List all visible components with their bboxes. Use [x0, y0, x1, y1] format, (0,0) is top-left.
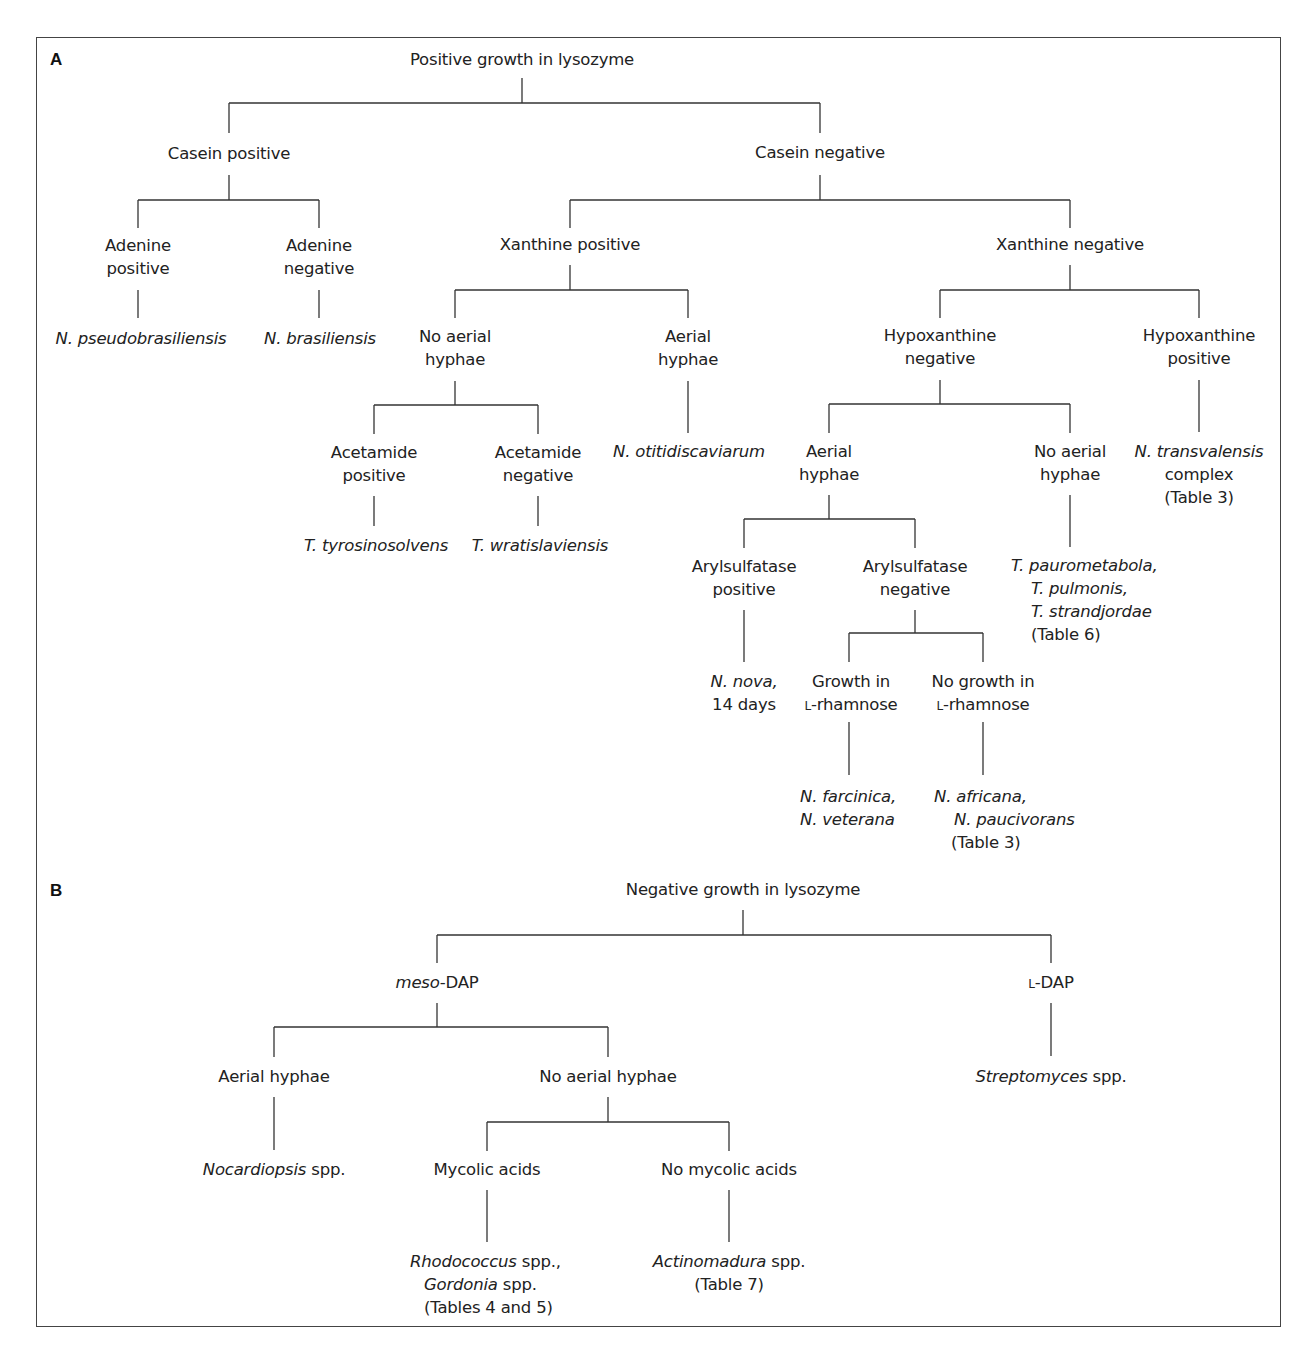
node-positive-growth-lysozyme: Positive growth in lysozyme [410, 48, 634, 71]
node-line: hyphae [799, 463, 859, 486]
node-text: -DAP [440, 973, 479, 992]
panel-b-label: B [50, 881, 62, 901]
node-adenine-negative: Adenine negative [284, 234, 355, 280]
panel-a-label: A [50, 50, 62, 70]
node-text: Gordonia [424, 1275, 498, 1294]
node-line: T. strandjordae [1011, 600, 1157, 623]
table-ref: (Table 6) [1011, 623, 1157, 646]
node-line: N. veterana [800, 808, 896, 831]
node-text: spp., [517, 1252, 561, 1271]
node-line: Adenine [284, 234, 355, 257]
node-line: negative [284, 257, 355, 280]
node-hypoxanthine-negative: Hypoxanthine negative [884, 324, 996, 370]
node-text: Streptomyces [975, 1067, 1087, 1086]
species-nocardiopsis: Nocardiopsis spp. [203, 1158, 345, 1181]
node-line: N. farcinica, [800, 785, 896, 808]
table-ref: (Tables 4 and 5) [410, 1296, 561, 1319]
node-text: Actinomadura [653, 1252, 767, 1271]
node-line: No aerial [1034, 440, 1106, 463]
node-line: positive [105, 257, 171, 280]
node-no-mycolic-acids: No mycolic acids [661, 1158, 797, 1181]
species-streptomyces: Streptomyces spp. [975, 1065, 1126, 1088]
node-line: Acetamide [331, 441, 417, 464]
node-line: No aerial [419, 325, 491, 348]
node-acetamide-negative: Acetamide negative [495, 441, 581, 487]
node-line: hyphae [1034, 463, 1106, 486]
node-casein-negative: Casein negative [755, 141, 885, 164]
node-text: spp. [498, 1275, 537, 1294]
node-text: -DAP [1035, 973, 1074, 992]
node-text: -rhamnose [943, 695, 1030, 714]
node-line: L-rhamnose [804, 693, 897, 718]
node-hn-aerial-hyphae: Aerial hyphae [799, 440, 859, 486]
node-hypoxanthine-positive: Hypoxanthine positive [1143, 324, 1255, 370]
node-line: Actinomadura spp. [653, 1250, 806, 1273]
node-text: Rhodococcus [410, 1252, 517, 1271]
species-n-transvalensis-complex: N. transvalensis complex (Table 3) [1135, 440, 1264, 509]
node-line: Rhodococcus spp., [410, 1250, 561, 1273]
species-actinomadura: Actinomadura spp. (Table 7) [653, 1250, 806, 1296]
node-text: meso [396, 973, 440, 992]
connector-lines [0, 0, 1310, 1355]
node-xanthine-negative: Xanthine negative [996, 233, 1144, 256]
node-hn-no-aerial-hyphae: No aerial hyphae [1034, 440, 1106, 486]
species-rhodococcus-gordonia: Rhodococcus spp., Gordonia spp. (Tables … [410, 1250, 561, 1319]
node-b-aerial-hyphae: Aerial hyphae [218, 1065, 329, 1088]
node-line: Aerial [799, 440, 859, 463]
node-line: hyphae [658, 348, 718, 371]
node-b-no-aerial-hyphae: No aerial hyphae [539, 1065, 676, 1088]
node-meso-dap: meso-DAP [396, 971, 479, 994]
node-text: -rhamnose [811, 695, 898, 714]
node-line: 14 days [711, 693, 778, 716]
node-acetamide-positive: Acetamide positive [331, 441, 417, 487]
node-line: Arylsulfatase [692, 555, 797, 578]
node-line: negative [863, 578, 968, 601]
node-line: hyphae [419, 348, 491, 371]
node-mycolic-acids: Mycolic acids [434, 1158, 541, 1181]
species-n-africana-paucivorans: N. africana, N. paucivorans (Table 3) [934, 785, 1075, 854]
species-n-farcinica-veterana: N. farcinica, N. veterana [800, 785, 896, 831]
node-growth-l-rhamnose: Growth in L-rhamnose [804, 670, 897, 718]
node-xanthine-positive: Xanthine positive [500, 233, 641, 256]
node-line: T. pulmonis, [1011, 577, 1157, 600]
node-xp-no-aerial-hyphae: No aerial hyphae [419, 325, 491, 371]
node-line: L-rhamnose [932, 693, 1035, 718]
species-n-brasiliensis: N. brasiliensis [264, 327, 376, 350]
species-t-wratislaviensis: T. wratislaviensis [472, 534, 608, 557]
node-line: N. africana, [934, 785, 1075, 808]
node-line: No growth in [932, 670, 1035, 693]
node-casein-positive: Casein positive [168, 142, 290, 165]
node-line: Arylsulfatase [863, 555, 968, 578]
table-ref: (Table 3) [934, 831, 1075, 854]
node-negative-growth-lysozyme: Negative growth in lysozyme [626, 878, 861, 901]
node-line: T. paurometabola, [1011, 554, 1157, 577]
species-n-otitidiscaviarum: N. otitidiscaviarum [613, 440, 765, 463]
species-n-pseudobrasiliensis: N. pseudobrasiliensis [56, 327, 227, 350]
node-line: Hypoxanthine [884, 324, 996, 347]
species-t-tyrosinosolvens: T. tyrosinosolvens [304, 534, 448, 557]
node-line: N. paucivorans [934, 808, 1075, 831]
node-line: Gordonia spp. [410, 1273, 561, 1296]
node-adenine-positive: Adenine positive [105, 234, 171, 280]
node-arylsulfatase-positive: Arylsulfatase positive [692, 555, 797, 601]
node-line: positive [692, 578, 797, 601]
node-line: positive [1143, 347, 1255, 370]
node-line: Adenine [105, 234, 171, 257]
node-no-growth-l-rhamnose: No growth in L-rhamnose [932, 670, 1035, 718]
node-arylsulfatase-negative: Arylsulfatase negative [863, 555, 968, 601]
node-line: negative [495, 464, 581, 487]
node-line: complex [1135, 463, 1264, 486]
node-xp-aerial-hyphae: Aerial hyphae [658, 325, 718, 371]
node-line: N. transvalensis [1135, 440, 1264, 463]
node-text: spp. [766, 1252, 805, 1271]
node-text: spp. [1088, 1067, 1127, 1086]
table-ref: (Table 3) [1135, 486, 1264, 509]
node-l-dap: L-DAP [1028, 971, 1073, 996]
node-line: Acetamide [495, 441, 581, 464]
node-line: Hypoxanthine [1143, 324, 1255, 347]
node-line: Aerial [658, 325, 718, 348]
species-tsukamurella-group: T. paurometabola, T. pulmonis, T. strand… [1011, 554, 1157, 646]
node-text: spp. [306, 1160, 345, 1179]
species-n-nova: N. nova, 14 days [711, 670, 778, 716]
node-text: Nocardiopsis [203, 1160, 306, 1179]
